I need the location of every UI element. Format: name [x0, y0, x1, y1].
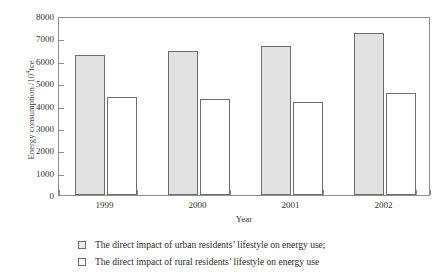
x-axis-tick-mark	[430, 190, 431, 195]
y-axis-tick-mark	[59, 175, 64, 176]
plot-area	[58, 17, 430, 196]
chart-legend: The direct impact of urban residents’ li…	[78, 236, 325, 270]
legend-label-rural: The direct impact of rural residents’ li…	[95, 257, 319, 267]
y-axis-tick-mark	[59, 63, 64, 64]
y-axis-tick-mark	[59, 152, 64, 153]
x-axis-tick-label-1999: 1999	[75, 200, 135, 210]
bar-chart-figure: Energy consumption /104tce 0100020003000…	[0, 0, 439, 277]
x-axis-tick-mark	[137, 190, 138, 195]
y-axis-tick-label: 8000	[10, 13, 54, 22]
x-axis-tick-label-2002: 2002	[354, 200, 414, 210]
bar-urban-2002	[354, 33, 384, 195]
bar-rural-2000	[200, 99, 230, 195]
legend-item-urban: The direct impact of urban residents’ li…	[78, 236, 325, 253]
y-axis-tick-mark	[59, 108, 64, 109]
y-axis-tick-label: 3000	[10, 124, 54, 133]
legend-swatch-rural	[78, 258, 86, 266]
y-axis-tick-mark	[59, 130, 64, 131]
y-axis-tick-label: 4000	[10, 102, 54, 111]
bar-rural-1999	[107, 97, 137, 195]
x-axis-tick-mark	[230, 190, 231, 195]
bar-urban-2000	[168, 51, 198, 195]
bar-rural-2001	[293, 102, 323, 195]
y-axis-title-exponent: 4	[24, 71, 31, 74]
y-axis-tick-mark	[59, 40, 64, 41]
legend-swatch-urban	[78, 241, 86, 249]
y-axis-tick-label: 1000	[10, 169, 54, 178]
x-axis-tick-mark	[416, 190, 417, 195]
x-axis-tick-mark	[59, 190, 60, 195]
bar-urban-1999	[75, 55, 105, 195]
bar-urban-2001	[261, 46, 291, 195]
legend-label-urban: The direct impact of urban residents’ li…	[95, 240, 325, 250]
bar-rural-2002	[386, 93, 416, 195]
x-axis-tick-label-2001: 2001	[261, 200, 321, 210]
y-axis-tick-label: 7000	[10, 35, 54, 44]
y-axis-tick-label: 5000	[10, 80, 54, 89]
x-axis-tick-mark	[323, 190, 324, 195]
x-axis-title: Year	[58, 214, 430, 224]
y-axis-tick-mark	[59, 85, 64, 86]
y-axis-tick-label: 6000	[10, 57, 54, 66]
y-axis-tick-label: 2000	[10, 147, 54, 156]
y-axis-tick-label: 0	[10, 192, 54, 201]
legend-item-rural: The direct impact of rural residents’ li…	[78, 253, 325, 270]
x-axis-tick-label-2000: 2000	[168, 200, 228, 210]
